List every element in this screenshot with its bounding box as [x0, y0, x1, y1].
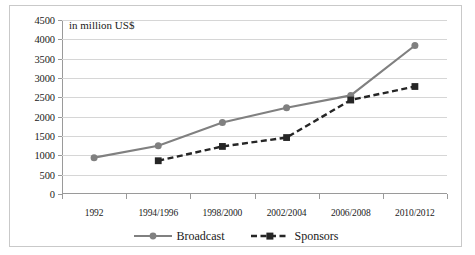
data-point-marker	[283, 134, 290, 141]
x-axis-tick-label: 2006/2008	[331, 208, 371, 218]
y-axis-tick-label: 0	[50, 189, 55, 200]
series-line-sponsors	[158, 87, 415, 161]
y-axis-tick-label: 4000	[34, 34, 55, 45]
plot-area: 050010001500200025003000350040004500 199…	[62, 20, 447, 194]
x-axis-tick-label: 1994/1996	[138, 208, 178, 218]
y-axis-tick-label: 1000	[34, 150, 55, 161]
data-point-marker	[155, 157, 162, 164]
legend-swatch-circle-icon	[133, 230, 173, 242]
x-axis-tick-label: 2010/2012	[395, 208, 435, 218]
x-tick-mark	[62, 194, 63, 199]
x-axis-tick-label: 2002/2004	[267, 208, 307, 218]
data-point-marker	[347, 97, 354, 104]
data-point-marker	[283, 104, 290, 111]
x-tick-mark	[126, 194, 127, 199]
y-axis-tick-label: 2000	[34, 111, 55, 122]
y-axis-tick-label: 3000	[34, 73, 55, 84]
x-tick-mark	[447, 194, 448, 199]
legend-item-sponsors[interactable]: Sponsors	[250, 229, 338, 244]
x-tick-mark	[383, 194, 384, 199]
data-point-marker	[412, 83, 419, 90]
y-axis-tick-label: 500	[40, 169, 55, 180]
data-point-marker	[155, 142, 162, 149]
legend-item-broadcast[interactable]: Broadcast	[133, 229, 225, 244]
chart-legend: BroadcastSponsors	[10, 228, 461, 244]
y-axis-tick-label: 3500	[34, 53, 55, 64]
y-axis-tick-label: 2500	[34, 92, 55, 103]
legend-label: Sponsors	[294, 229, 338, 244]
data-point-marker	[91, 154, 98, 161]
x-tick-mark	[319, 194, 320, 199]
legend-label: Broadcast	[177, 229, 225, 244]
x-tick-mark	[190, 194, 191, 199]
data-point-marker	[411, 42, 418, 49]
chart-figure: 050010001500200025003000350040004500 199…	[9, 5, 462, 247]
x-axis-tick-label: 1992	[85, 208, 104, 218]
x-tick-mark	[255, 194, 256, 199]
y-axis-tick-label: 4500	[34, 15, 55, 26]
x-axis-tick-label: 1998/2000	[203, 208, 243, 218]
data-point-marker	[219, 143, 226, 150]
series-layer	[62, 20, 447, 194]
data-point-marker	[219, 119, 226, 126]
y-axis-tick-label: 1500	[34, 131, 55, 142]
legend-swatch-square-icon	[250, 230, 290, 242]
